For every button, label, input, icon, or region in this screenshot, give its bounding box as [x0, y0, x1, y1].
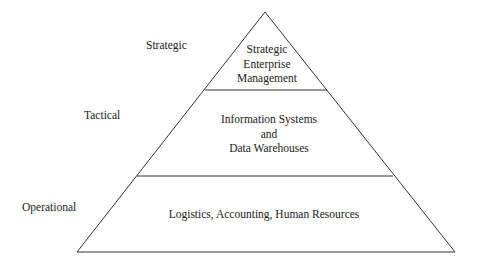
- content-line: Information Systems: [221, 112, 317, 127]
- level-label-strategic: Strategic: [146, 38, 187, 52]
- level-label-tactical: Tactical: [84, 108, 120, 122]
- level-content-strategic: Strategic Enterprise Management: [237, 42, 297, 86]
- level-content-tactical: Information Systems and Data Warehouses: [221, 112, 317, 156]
- content-line: Data Warehouses: [221, 141, 317, 156]
- content-line: and: [221, 127, 317, 142]
- content-line: Enterprise: [237, 57, 297, 72]
- pyramid-diagram: Strategic Tactical Operational Strategic…: [0, 0, 480, 273]
- level-label-operational: Operational: [22, 200, 76, 214]
- content-line: Logistics, Accounting, Human Resources: [169, 207, 360, 222]
- level-content-operational: Logistics, Accounting, Human Resources: [169, 207, 360, 222]
- content-line: Strategic: [237, 42, 297, 57]
- content-line: Management: [237, 71, 297, 86]
